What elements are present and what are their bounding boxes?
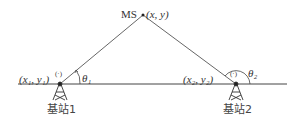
bs2-coords: (x₂, y₂) [183,74,213,85]
ms-label: MS [121,9,137,20]
bs1-label: 基站1 [47,104,76,115]
theta1-label: θ₁ [82,73,91,84]
bs1-marker: (·) [55,71,62,78]
bs1-coords: (x₁, y₁) [19,74,49,85]
theta2-label: θ₂ [248,68,257,79]
ms-point [142,14,145,17]
theta2-arc [225,71,250,84]
tower-icon-2 [229,82,243,100]
theta1-arc [76,70,80,84]
tower-icon-1 [53,82,67,100]
aoa-positioning-diagram: MS (x, y) (x₁, y₁) (·) θ₁ 基站1 (x₂, y₂) (… [0,0,302,123]
ms-coords: (x, y) [146,9,169,20]
bs2-label: 基站2 [223,104,252,115]
bs2-marker: (·) [230,71,237,78]
line-bs1-ms [60,15,143,84]
